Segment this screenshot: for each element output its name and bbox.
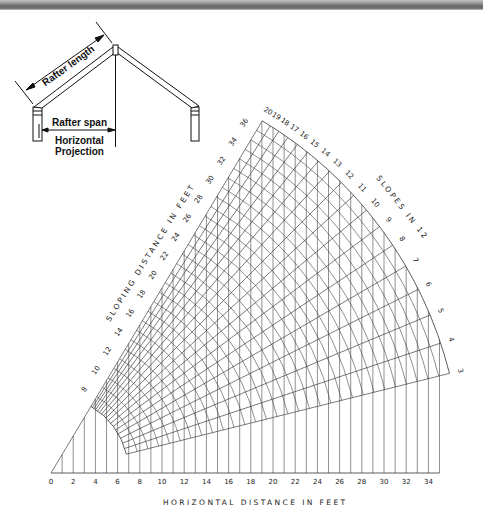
slope-label: 18 — [279, 116, 291, 128]
sloping-tick-label: 26 — [182, 212, 194, 224]
slope-label: 6 — [424, 281, 433, 289]
slope-label: 4 — [447, 336, 456, 343]
slope-label: 15 — [309, 138, 321, 150]
sloping-distance-arc — [131, 340, 202, 436]
sloping-tick-label: 22 — [159, 250, 171, 262]
x-tick-label: 30 — [380, 478, 389, 486]
slope-label: 13 — [331, 157, 343, 169]
sloping-distance-arc — [165, 283, 266, 420]
rafter-chart: 0246810121416182022242628303234 81012141… — [0, 0, 483, 526]
x-tick-label: 6 — [115, 478, 120, 486]
x-axis-title: HORIZONTAL DISTANCE IN FEET — [163, 498, 348, 507]
sloping-distance-arc — [171, 273, 277, 416]
sloping-tick-label: 10 — [90, 364, 102, 376]
x-tick-label: 26 — [335, 478, 344, 486]
x-tick-label: 16 — [224, 478, 233, 486]
sloping-distance-arc — [194, 235, 320, 406]
sloping-distance-arc — [245, 149, 417, 381]
sloping-tick-label: 18 — [136, 288, 148, 300]
slope-label: 7 — [411, 257, 420, 265]
sloping-tick-label: 32 — [216, 155, 228, 167]
slope-labels: 34567891011121314151617181920 — [262, 106, 464, 374]
x-tick-label: 22 — [291, 478, 300, 486]
sloping-distance-arc — [160, 292, 256, 422]
sloping-distance-arc — [142, 321, 223, 430]
x-tick-label: 14 — [202, 478, 211, 486]
sloping-tick-label: 16 — [124, 307, 136, 319]
sloping-tick-label: 28 — [193, 193, 205, 205]
x-axis-ticks: 0246810121416182022242628303234 — [49, 478, 434, 486]
sloping-distance-arc — [148, 311, 234, 427]
x-tick-label: 28 — [357, 478, 366, 486]
sloping-distance-arc — [182, 254, 298, 411]
sloping-tick-label: 12 — [102, 345, 114, 357]
slope-label: 12 — [343, 169, 355, 181]
x-tick-label: 4 — [93, 478, 98, 486]
x-tick-label: 12 — [180, 478, 189, 486]
sloping-distance-arc — [102, 387, 148, 448]
slope-label: 17 — [288, 123, 300, 135]
sloping-tick-label: 14 — [113, 326, 125, 338]
sloping-tick-label: 36 — [239, 117, 251, 129]
slope-label: 14 — [320, 147, 332, 159]
x-tick-label: 24 — [313, 478, 322, 486]
sloping-distance-arc — [211, 206, 353, 397]
slope-label: 11 — [356, 182, 368, 194]
sloping-tick-label: 20 — [147, 269, 159, 281]
chart-grid — [51, 121, 449, 473]
sloping-tick-label: 30 — [204, 174, 216, 186]
sloping-distance-arc — [217, 197, 364, 395]
sloping-distance-arc — [91, 406, 126, 454]
sloping-distance-arc — [262, 121, 449, 374]
sloping-distance-arc — [239, 159, 406, 384]
slope-label: 10 — [369, 197, 381, 209]
slope-label: 8 — [397, 235, 406, 243]
slope-label: 3 — [456, 368, 465, 374]
x-tick-label: 10 — [158, 478, 167, 486]
x-tick-label: 0 — [49, 478, 53, 486]
sloping-tick-label: 24 — [170, 231, 182, 243]
x-tick-label: 32 — [402, 478, 411, 486]
x-tick-label: 2 — [71, 478, 75, 486]
sloping-tick-label: 34 — [227, 136, 239, 148]
slope-label: 5 — [436, 307, 445, 314]
sloping-tick-label: 8 — [80, 385, 89, 393]
slope-label: 9 — [384, 216, 393, 224]
x-tick-label: 18 — [246, 478, 255, 486]
x-tick-label: 34 — [424, 478, 433, 486]
x-tick-label: 20 — [269, 478, 278, 486]
x-tick-label: 8 — [138, 478, 142, 486]
sloping-distance-arc — [97, 397, 137, 452]
slope-label: 16 — [298, 130, 310, 142]
